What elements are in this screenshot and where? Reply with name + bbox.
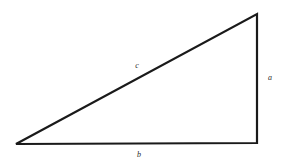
hypotenuse-label-c: c xyxy=(135,62,139,70)
triangle-shape xyxy=(0,0,284,164)
vertical-leg-label-a: a xyxy=(268,74,272,82)
triangle-outline-path xyxy=(16,14,257,144)
horizontal-leg-label-b: b xyxy=(137,151,141,159)
right-triangle-figure: c a b xyxy=(0,0,284,164)
